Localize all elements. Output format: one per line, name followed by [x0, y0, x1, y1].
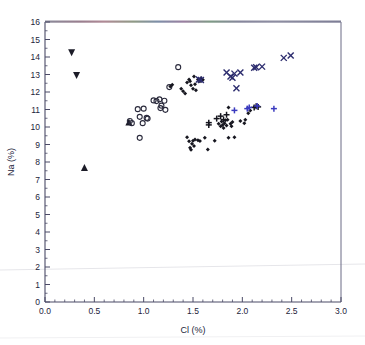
y-tick-label: 10 — [31, 122, 41, 132]
x-tick-label: 0.5 — [88, 306, 100, 316]
y-tick-label: 0 — [35, 297, 40, 307]
y-tick-label: 12 — [31, 87, 41, 97]
y-tick-label: 5 — [35, 210, 40, 220]
x-tick-label: 2.0 — [236, 306, 248, 316]
y-tick-label: 7 — [35, 175, 40, 185]
y-tick-label: 13 — [31, 70, 41, 80]
y-tick-label: 6 — [35, 192, 40, 202]
x-tick-label: 0.0 — [39, 306, 51, 316]
scatter-plot-figure: 0.00.51.01.52.02.53.00123456789101112131… — [0, 0, 365, 345]
figure-background — [0, 0, 365, 345]
plot-canvas: 0.00.51.01.52.02.53.00123456789101112131… — [0, 0, 365, 345]
x-tick-label: 1.5 — [187, 306, 199, 316]
x-tick-label: 1.0 — [138, 306, 150, 316]
y-axis-label: Na (%) — [6, 148, 16, 176]
y-tick-label: 3 — [35, 245, 40, 255]
y-tick-label: 1 — [35, 280, 40, 290]
x-axis-label: Cl (%) — [181, 325, 206, 335]
y-tick-label: 8 — [35, 157, 40, 167]
y-tick-label: 2 — [35, 262, 40, 272]
y-tick-label: 4 — [35, 227, 40, 237]
x-tick-label: 3.0 — [335, 306, 347, 316]
y-tick-label: 14 — [31, 52, 41, 62]
y-tick-label: 15 — [31, 35, 41, 45]
y-tick-label: 11 — [31, 105, 40, 115]
y-tick-label: 16 — [31, 17, 41, 27]
y-tick-label: 9 — [35, 140, 40, 150]
x-tick-label: 2.5 — [286, 306, 298, 316]
